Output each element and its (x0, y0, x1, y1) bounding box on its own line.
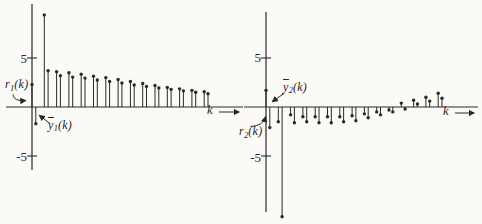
right-ybar-args: (k) (293, 80, 307, 94)
left-r-args: (k) (14, 77, 28, 91)
right-ytick-5: 5 (248, 50, 261, 66)
right-ybar-label: y2(k) (283, 79, 307, 95)
left-ytick-5: 5 (14, 51, 27, 67)
right-k-axis-label: k (443, 104, 449, 119)
left-ybar-label: y1(k) (48, 117, 72, 133)
figure-stem-plots: 5 -5 r1(k) y1(k) k 5 -5 y2(k) r2(k) k (0, 0, 482, 224)
left-ytick-minus5: -5 (8, 149, 27, 165)
left-k-axis-label: k (207, 103, 213, 118)
right-r-label: r2(k) (239, 124, 262, 140)
left-ybar-args: (k) (58, 118, 72, 132)
right-r-args: (k) (248, 124, 262, 138)
right-ytick-minus5: -5 (242, 150, 261, 166)
stem-plots-canvas (0, 0, 482, 224)
left-r-label: r1(k) (5, 77, 28, 93)
